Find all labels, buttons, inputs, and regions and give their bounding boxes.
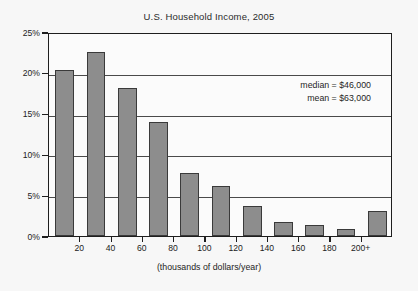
bar [305, 225, 324, 236]
bar [212, 186, 231, 236]
plot-area [48, 33, 392, 237]
bar [243, 206, 262, 236]
x-axis-tick-mark [111, 237, 112, 242]
bar [55, 70, 74, 236]
bar [149, 122, 168, 236]
bar [368, 211, 387, 236]
x-axis-tick-mark [142, 237, 143, 242]
bar [180, 173, 199, 236]
median-annotation: median = $46,000 [231, 79, 371, 92]
x-axis-tick-label: 180 [312, 243, 346, 253]
y-axis-tick-label: 10% [4, 150, 40, 160]
x-axis-tick-label: 160 [281, 243, 315, 253]
bar [118, 88, 137, 237]
x-axis-tick-label: 140 [250, 243, 284, 253]
x-axis-tick-mark [361, 237, 362, 242]
x-axis-tick-label: 200+ [344, 243, 378, 253]
mean-annotation: mean = $63,000 [231, 92, 371, 105]
chart-title: U.S. Household Income, 2005 [0, 11, 418, 22]
y-axis-tick-label: 5% [4, 191, 40, 201]
x-axis-tick-mark [204, 237, 205, 242]
x-axis-tick-mark [329, 237, 330, 242]
x-axis-tick-label: 20 [62, 243, 96, 253]
x-axis-tick-mark [267, 237, 268, 242]
x-axis-tick-label: 40 [94, 243, 128, 253]
bar [274, 222, 293, 236]
plot-inner [49, 34, 391, 236]
x-axis-tick-mark [173, 237, 174, 242]
chart-screenshot: U.S. Household Income, 2005 0%5%10%15%20… [0, 0, 418, 291]
y-axis-tick-label: 15% [4, 109, 40, 119]
x-axis-tick-label: 120 [219, 243, 253, 253]
x-axis-tick-mark [79, 237, 80, 242]
x-axis-tick-mark [298, 237, 299, 242]
x-axis-tick-label: 100 [187, 243, 221, 253]
chart-annotation: median = $46,000 mean = $63,000 [231, 79, 371, 104]
y-axis-tick-label: 20% [4, 68, 40, 78]
x-axis-tick-label: 60 [125, 243, 159, 253]
bar [337, 229, 356, 236]
x-axis-title: (thousands of dollars/year) [0, 262, 418, 272]
y-axis-tick-label: 0% [4, 232, 40, 242]
bar [87, 52, 106, 236]
y-axis-tick-label: 25% [4, 28, 40, 38]
x-axis-tick-label: 80 [156, 243, 190, 253]
x-axis-tick-mark [236, 237, 237, 242]
